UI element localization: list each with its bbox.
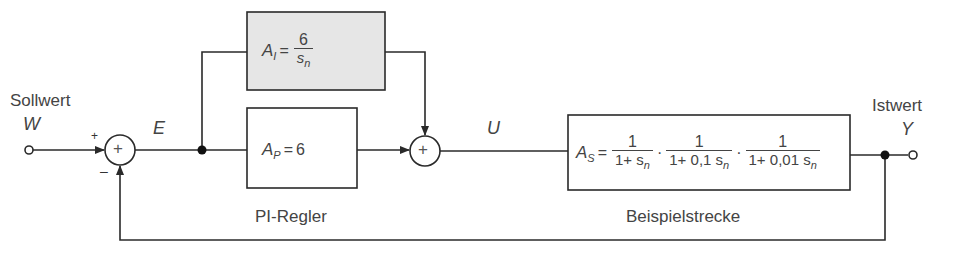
setpoint-label: Sollwert [10, 91, 70, 111]
branch-point-output [881, 151, 890, 160]
control-signal-symbol: U [487, 118, 500, 139]
controller-caption: PI-Regler [255, 207, 327, 227]
integral-branch-line [202, 52, 247, 150]
output-terminal [909, 151, 917, 159]
multiply-dot: · [657, 144, 662, 162]
multiply-dot: · [736, 144, 741, 162]
summer-2-plus-glyph: + [418, 140, 428, 160]
proportional-lhs: AP [262, 140, 281, 161]
branch-point-error [198, 146, 207, 155]
actual-value-symbol: Y [901, 119, 913, 140]
minus-sign: – [100, 163, 108, 179]
input-terminal [25, 146, 33, 154]
plant-caption: Beispielstrecke [626, 207, 740, 227]
integral-output-line [385, 52, 425, 135]
plant-fraction-2: 1 1+ 0,1 sn [666, 133, 732, 174]
equals-sign: = [598, 144, 607, 162]
summer-1-plus-glyph: + [113, 139, 123, 159]
plant-lhs: AS [576, 143, 595, 164]
plus-sign: + [91, 129, 98, 143]
plant-formula: AS = 1 1+ sn · 1 1+ 0,1 sn · 1 1+ 0,01 s… [576, 125, 822, 181]
plant-fraction-1: 1 1+ sn [612, 133, 653, 174]
setpoint-symbol: W [23, 114, 40, 135]
error-symbol: E [153, 118, 165, 139]
plant-fraction-3: 1 1+ 0,01 sn [746, 133, 820, 174]
equals-sign: = [284, 141, 293, 159]
integral-fraction: 6 sn [294, 31, 314, 72]
equals-sign: = [279, 42, 288, 60]
integral-formula: AI = 6 sn [262, 20, 315, 82]
proportional-gain: 6 [296, 141, 305, 159]
actual-value-label: Istwert [872, 96, 922, 116]
integral-lhs: AI [262, 41, 276, 62]
proportional-formula: AP = 6 [262, 138, 305, 162]
